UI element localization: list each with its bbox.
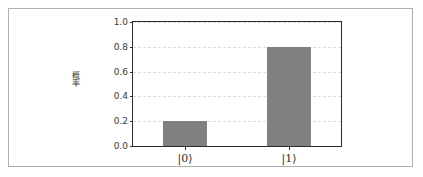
bar bbox=[267, 47, 311, 146]
bar bbox=[163, 121, 207, 146]
figure-frame: 概率 0.00.20.40.60.81.0|0⟩|1⟩ bbox=[8, 8, 413, 167]
y-axis-tick-mark bbox=[130, 47, 133, 48]
x-axis-tick-mark bbox=[185, 146, 186, 150]
y-axis-tick-mark bbox=[130, 96, 133, 97]
y-axis-tick-label: 1.0 bbox=[114, 17, 128, 27]
y-axis-tick-label: 0.8 bbox=[114, 42, 128, 52]
y-axis-tick-mark bbox=[130, 146, 133, 147]
x-axis-tick-label: |0⟩ bbox=[178, 152, 193, 165]
x-axis-tick-label: |1⟩ bbox=[282, 152, 297, 165]
y-axis-label: 概率 bbox=[65, 59, 79, 99]
y-axis-tick-mark bbox=[130, 72, 133, 73]
y-axis-tick-label: 0.6 bbox=[114, 67, 128, 77]
y-axis-tick-label: 0.4 bbox=[114, 91, 128, 101]
plot-area: 0.00.20.40.60.81.0|0⟩|1⟩ bbox=[132, 21, 342, 147]
gridline bbox=[133, 22, 341, 23]
y-axis-tick-mark bbox=[130, 121, 133, 122]
y-axis-tick-label: 0.0 bbox=[114, 141, 128, 151]
y-axis-tick-label: 0.2 bbox=[114, 116, 128, 126]
y-axis-tick-mark bbox=[130, 22, 133, 23]
plot-wrapper: 概率 0.00.20.40.60.81.0|0⟩|1⟩ bbox=[9, 9, 414, 168]
x-axis-tick-mark bbox=[289, 146, 290, 150]
